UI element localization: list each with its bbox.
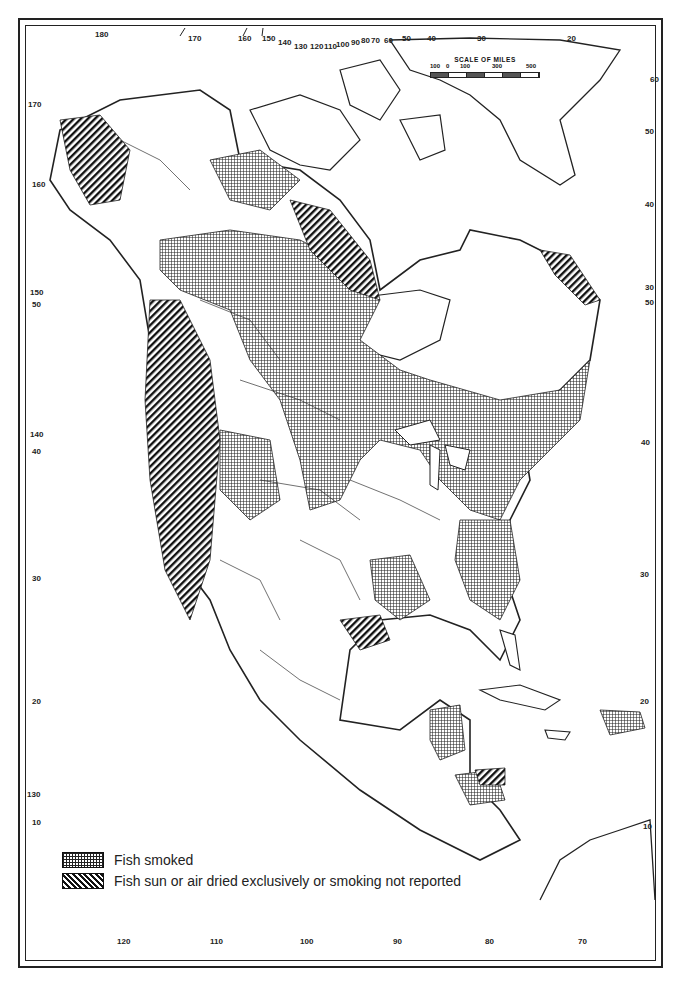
graticule-label-left: 20 <box>32 697 41 706</box>
map-legend: Fish smoked Fish sun or air dried exclus… <box>62 852 461 894</box>
graticule-label-left: 140 <box>30 430 43 439</box>
scale-label: 100 <box>430 63 440 69</box>
graticule-label-right: 60 <box>650 75 659 84</box>
longitude-label: 120 <box>117 937 130 946</box>
longitude-label: 110 <box>324 42 337 51</box>
scale-label: 100 <box>460 63 470 69</box>
longitude-label: 40 <box>427 34 436 43</box>
graticule-label-left: 170 <box>28 100 41 109</box>
graticule-label-left: 130 <box>27 790 40 799</box>
longitude-label: 80 <box>361 36 370 45</box>
graticule-label-right: 50 <box>645 127 654 136</box>
graticule-label-left: 50 <box>32 300 41 309</box>
longitude-label: 110 <box>210 937 223 946</box>
graticule-label-right: 40 <box>645 200 654 209</box>
scale-label: 300 <box>492 63 502 69</box>
longitude-label: 170 <box>188 34 201 43</box>
scale-label: 0 <box>446 63 449 69</box>
smoked-region-hispaniola <box>600 710 645 735</box>
cuba-island <box>480 685 560 710</box>
legend-label: Fish sun or air dried exclusively or smo… <box>114 873 461 889</box>
graticule-label-left: 160 <box>32 180 45 189</box>
legend-item-smoked: Fish smoked <box>62 852 461 868</box>
graticule-label-left: 30 <box>32 574 41 583</box>
longitude-label: 70 <box>371 36 380 45</box>
graticule-label-right: 50 <box>645 298 654 307</box>
longitude-label: 160 <box>238 34 251 43</box>
longitude-label: 20 <box>567 34 576 43</box>
longitude-label: 100 <box>300 937 313 946</box>
legend-label: Fish smoked <box>114 852 193 868</box>
south-america-coast <box>540 820 655 900</box>
scale-label: 500 <box>526 63 536 69</box>
longitude-label: 150 <box>262 34 275 43</box>
longitude-label: 50 <box>402 34 411 43</box>
arctic-islands <box>250 60 445 170</box>
longitude-label: 90 <box>351 38 360 47</box>
longitude-label: 130 <box>294 42 307 51</box>
graticule-label-right: 40 <box>641 438 650 447</box>
scale-bar <box>430 72 540 78</box>
longitude-label: 70 <box>578 937 587 946</box>
graticule-label-left: 150 <box>30 288 43 297</box>
longitude-label: 80 <box>485 937 494 946</box>
graticule-label-right: 30 <box>645 283 654 292</box>
longitude-label: 100 <box>336 40 349 49</box>
crosshatch-swatch-icon <box>62 852 104 868</box>
graticule-label-right: 20 <box>640 697 649 706</box>
north-america-map <box>0 0 679 981</box>
diagonal-stripes-swatch-icon <box>62 873 104 889</box>
graticule-label-left: 10 <box>32 818 41 827</box>
longitude-label: 90 <box>393 937 402 946</box>
jamaica-island <box>545 730 570 740</box>
scale-of-miles: SCALE OF MILES 100 0 100 300 500 <box>430 56 540 78</box>
longitude-label: 60 <box>384 36 393 45</box>
longitude-label: 30 <box>477 34 486 43</box>
longitude-label: 120 <box>310 42 323 51</box>
scale-labels: 100 0 100 300 500 <box>430 63 540 72</box>
graticule-label-right: 30 <box>640 570 649 579</box>
graticule-label-left: 40 <box>32 447 41 456</box>
scale-title: SCALE OF MILES <box>430 56 540 63</box>
longitude-label: 180 <box>95 30 108 39</box>
legend-item-dried: Fish sun or air dried exclusively or smo… <box>62 873 461 889</box>
longitude-label: 140 <box>278 38 291 47</box>
graticule-label-right: 10 <box>643 822 652 831</box>
dried-region-mosquito-coast <box>475 768 505 785</box>
